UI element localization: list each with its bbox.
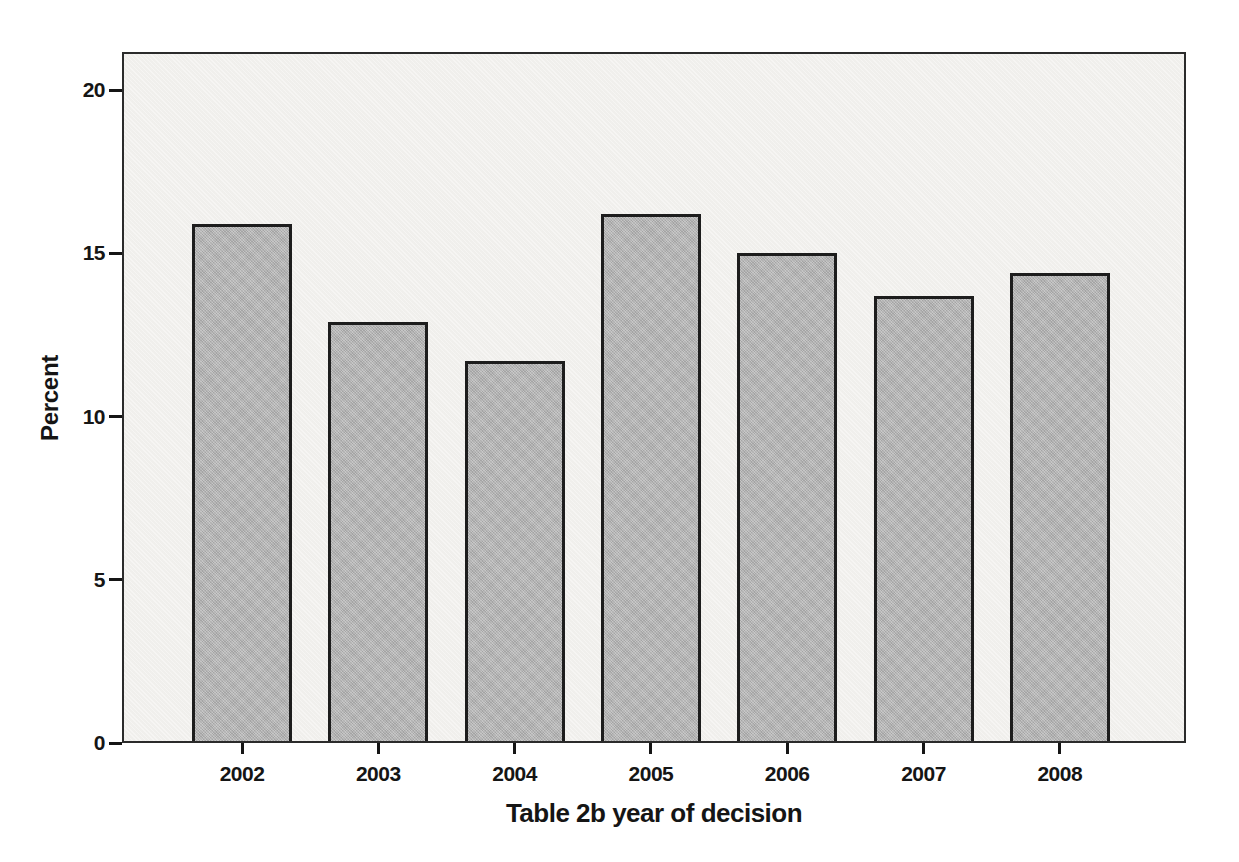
x-axis-tick	[513, 743, 516, 754]
x-tick-label: 2003	[323, 762, 433, 786]
x-axis-tick	[649, 743, 652, 754]
x-tick-label: 2008	[1005, 762, 1115, 786]
x-axis-tick	[786, 743, 789, 754]
bar-2003	[328, 322, 428, 741]
y-tick-label: 0	[37, 731, 105, 755]
x-axis-tick	[241, 743, 244, 754]
x-tick-label: 2007	[869, 762, 979, 786]
bar-2007	[874, 296, 974, 741]
x-axis-tick	[922, 743, 925, 754]
x-axis-tick	[1058, 743, 1061, 754]
x-tick-label: 2002	[187, 762, 297, 786]
x-tick-label: 2005	[596, 762, 706, 786]
y-axis-tick	[109, 578, 122, 581]
y-axis-tick	[109, 742, 122, 745]
y-tick-label: 10	[37, 405, 105, 429]
bar-chart-figure: Percent Table 2b year of decision 051015…	[0, 0, 1239, 862]
x-tick-label: 2006	[732, 762, 842, 786]
x-axis-title: Table 2b year of decision	[506, 798, 802, 829]
bar-2002	[192, 224, 292, 741]
y-tick-label: 15	[37, 241, 105, 265]
y-axis-tick	[109, 415, 122, 418]
y-axis-tick	[109, 89, 122, 92]
y-tick-label: 20	[37, 78, 105, 102]
x-axis-tick	[377, 743, 380, 754]
bar-2008	[1010, 273, 1110, 741]
x-tick-label: 2004	[460, 762, 570, 786]
y-tick-label: 5	[37, 568, 105, 592]
y-axis-tick	[109, 252, 122, 255]
bar-2005	[601, 214, 701, 741]
bar-2006	[737, 253, 837, 741]
bar-2004	[465, 361, 565, 741]
